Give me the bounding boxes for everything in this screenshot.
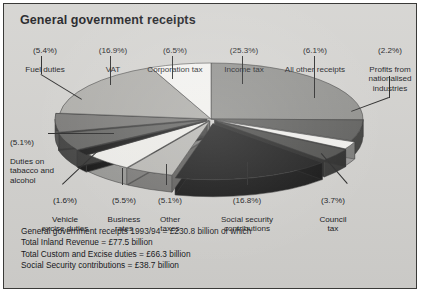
footer-notes: General government receipts 1993/94 = £2… [21,226,351,271]
footer-line-2: Total Inland Revenue = £77.5 billion [21,237,351,248]
footer-line-1: General government receipts 1993/94 = £2… [21,226,351,237]
chart-card: General government receipts (5.4%) Fuel … [3,3,417,289]
leader-business-rates [122,168,123,185]
callout-corporation-tax: (6.5%) Corporation tax [138,36,212,84]
callout-name: Corporation tax [138,65,212,75]
callout-pct: (6.5%) [138,46,212,56]
callout-pct: (3.7%) [309,196,357,206]
callout-name: Income tax [213,65,275,75]
callout-name: All other receipts [273,65,357,75]
callout-name: VAT [86,65,140,75]
callout-name: Duties on tabacco and alcohol [10,157,72,186]
callout-vat: (16.9%) VAT [86,36,140,84]
callout-pct: (5.5%) [100,196,148,206]
callout-name: Profits from nationalised industries [359,65,417,94]
callout-pct: (5.1%) [10,138,72,148]
callout-pct: (16.8%) [204,196,290,206]
callout-income-tax: (25.3%) Income tax [213,36,275,84]
callout-pct: (16.9%) [86,46,140,56]
footer-line-3: Total Custom and Excise duties = £66.3 b… [21,249,351,260]
callout-pct: (25.3%) [213,46,275,56]
callout-fuel-duties: (5.4%) Fuel duties [10,36,80,84]
footer-line-4: Social Security contributions = £38.7 bi… [21,260,351,271]
leader-social-security [247,162,248,185]
callout-profits: (2.2%) Profits from nationalised industr… [359,36,417,103]
callout-pct: (1.6%) [32,196,98,206]
callout-name: Fuel duties [10,65,80,75]
callout-pct: (5.1%) [148,196,192,206]
leader-other-taxes [166,164,167,185]
callout-pct: (2.2%) [359,46,417,56]
callout-all-other-receipts: (6.1%) All other receipts [273,36,357,84]
callout-pct: (5.4%) [10,46,80,56]
callout-pct: (6.1%) [273,46,357,56]
